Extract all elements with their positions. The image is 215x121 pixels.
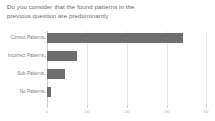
- bar-incorrect-patterns: [47, 51, 77, 61]
- category-tick: [44, 74, 46, 75]
- x-tick: [47, 105, 48, 108]
- bar-no-patterns: [47, 87, 51, 97]
- x-tick: [206, 105, 207, 108]
- x-tick: [167, 105, 168, 108]
- category-label: Correct Patterns: [11, 35, 44, 41]
- category-label: Incorrect Patterns: [8, 53, 44, 59]
- bar-sub-patterns: [47, 69, 65, 79]
- x-tick: [87, 105, 88, 108]
- category-label: No Patterns: [20, 89, 44, 95]
- bar-row: [47, 33, 183, 43]
- bar-chart: Do you consider that the found patterns …: [0, 0, 215, 121]
- x-tick-label: 0: [46, 109, 48, 114]
- x-tick-label: 30: [165, 109, 170, 114]
- bar-row: [47, 69, 65, 79]
- bar-correct-patterns: [47, 33, 183, 43]
- gridline: [206, 31, 207, 105]
- category-tick: [44, 38, 46, 39]
- x-tick-label: 20: [125, 109, 130, 114]
- x-tick: [127, 105, 128, 108]
- category-tick: [44, 56, 46, 57]
- x-tick-label: 10: [85, 109, 90, 114]
- bar-row: [47, 87, 51, 97]
- x-tick-label: 40: [204, 109, 209, 114]
- bar-row: [47, 51, 77, 61]
- category-label: Sub-Patterns: [17, 71, 44, 77]
- chart-title: Do you consider that the found patterns …: [7, 3, 157, 20]
- plot-area: [47, 31, 207, 105]
- category-axis: Correct Patterns Incorrect Patterns Sub-…: [0, 31, 44, 105]
- category-tick: [44, 92, 46, 93]
- value-axis: 0 10 20 30 40: [47, 105, 207, 119]
